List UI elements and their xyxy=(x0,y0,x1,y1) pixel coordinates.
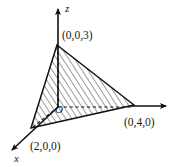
vertex-label-y-intercept: (0,4,0) xyxy=(124,116,155,129)
diagram-canvas: z x O (0,0,3) (0,4,0) (2,0,0) xyxy=(0,0,174,167)
coordinate-diagram: z x O (0,0,3) (0,4,0) (2,0,0) xyxy=(0,0,174,167)
z-axis-label: z xyxy=(64,2,70,14)
vertex-label-x-intercept: (2,0,0) xyxy=(30,140,61,153)
origin-label: O xyxy=(55,103,63,115)
vertex-label-z-intercept: (0,0,3) xyxy=(62,29,93,42)
x-axis-label: x xyxy=(13,152,19,164)
